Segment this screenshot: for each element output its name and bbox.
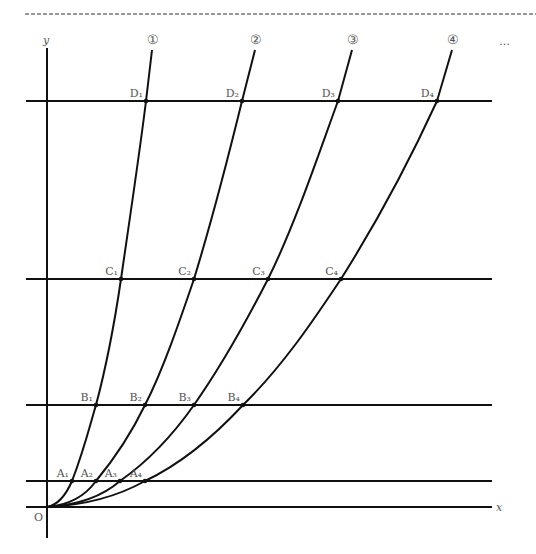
curve-labels: ①②③④ [147, 32, 459, 47]
point-dot [240, 99, 245, 104]
point-label: C₄ [325, 265, 338, 278]
point-dot [118, 479, 123, 484]
point-label: B₁ [81, 391, 94, 404]
point-label: C₃ [252, 265, 265, 278]
point-label: D₂ [226, 87, 239, 100]
point-label: C₂ [178, 265, 191, 278]
point-dot [339, 277, 344, 282]
point-dot [241, 403, 246, 408]
point-label: B₃ [179, 391, 192, 404]
point-dot [336, 99, 341, 104]
y-axis-label: y [42, 34, 50, 47]
point-label: B₄ [228, 391, 241, 404]
curve-label-4: ④ [447, 32, 459, 47]
point-label: A₃ [104, 467, 117, 480]
curve-label-2: ② [250, 32, 262, 47]
curve-family-diagram: y x O ①②③④ … D₁D₂D₃D₄C₁C₂C₃C₄B₁B₂B₃B₄A₁A… [0, 0, 536, 554]
point-dot [435, 99, 440, 104]
point-label: D₃ [322, 87, 335, 100]
point-dot [94, 479, 99, 484]
point-label: B₂ [130, 391, 143, 404]
point-label: A₄ [129, 467, 143, 480]
point-dot [143, 403, 148, 408]
point-label: C₁ [105, 265, 118, 278]
point-dot [192, 277, 197, 282]
point-dot [266, 277, 271, 282]
point-dot [70, 479, 75, 484]
horizontal-lines [26, 101, 492, 481]
point-label: A₂ [80, 467, 93, 480]
point-dot [144, 99, 149, 104]
point-label: A₁ [56, 467, 69, 480]
point-dot [119, 277, 124, 282]
x-axis-label: x [496, 501, 503, 514]
curve-label-1: ① [147, 32, 159, 47]
point-dot [192, 403, 197, 408]
origin-label: O [34, 511, 43, 524]
intersection-points: D₁D₂D₃D₄C₁C₂C₃C₄B₁B₂B₃B₄A₁A₂A₃A₄ [56, 87, 440, 483]
ellipsis-label: … [499, 35, 510, 48]
point-label: D₄ [421, 87, 435, 100]
point-dot [143, 479, 148, 484]
point-label: D₁ [130, 87, 143, 100]
point-dot [94, 403, 99, 408]
curve-label-3: ③ [347, 32, 359, 47]
